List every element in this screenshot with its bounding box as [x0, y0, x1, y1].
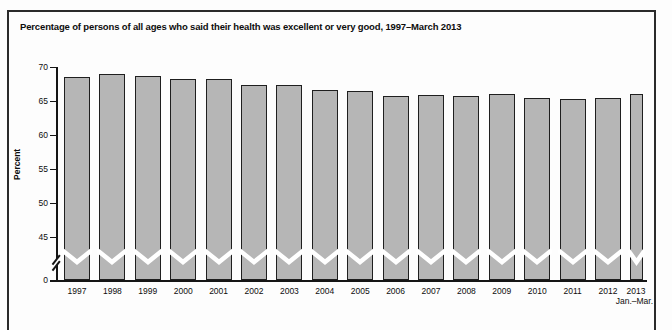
- y-tick-label-0: 0: [9, 275, 48, 285]
- bar-2001: [206, 79, 232, 280]
- chart-box: Percentage of persons of all ages who sa…: [7, 10, 656, 330]
- x-tick-label-2004: 2004: [315, 286, 334, 296]
- bar-1999: [135, 76, 161, 280]
- bar-2002: [241, 85, 267, 280]
- x-tick-sublabel: Jan.–Mar.: [616, 296, 653, 306]
- bar-2003: [276, 85, 302, 280]
- y-tick-label-60: 60: [9, 130, 48, 140]
- x-tick-label-2011: 2011: [563, 286, 581, 296]
- x-tick-label-2007: 2007: [422, 286, 441, 296]
- x-tick-label-2001: 2001: [209, 286, 228, 296]
- bar-2004: [312, 90, 338, 280]
- bar-2008: [453, 96, 479, 280]
- x-tick-label-2008: 2008: [457, 286, 476, 296]
- bar-2007: [418, 95, 444, 280]
- chart-title: Percentage of persons of all ages who sa…: [20, 21, 640, 32]
- axis-break-chevron-icon: [558, 247, 588, 267]
- y-tick-label-50: 50: [9, 198, 48, 208]
- x-tick-label-1998: 1998: [103, 286, 122, 296]
- axis-break-chevron-icon: [310, 247, 340, 267]
- bar-2009: [489, 94, 515, 280]
- bar-2012: [595, 98, 621, 280]
- axis-break-chevron-icon: [451, 247, 481, 267]
- axis-break-chevron-icon: [522, 247, 552, 267]
- bar-2000: [170, 79, 196, 280]
- x-tick-label-1999: 1999: [138, 286, 157, 296]
- x-tick-label-1997: 1997: [68, 286, 87, 296]
- axis-break-chevron-icon: [381, 247, 411, 267]
- axis-break-chevron-icon: [628, 247, 645, 267]
- y-tick-label-65: 65: [9, 96, 48, 106]
- axis-break-chevron-icon: [97, 247, 127, 267]
- x-tick-label-2005: 2005: [351, 286, 370, 296]
- x-tick-label-2000: 2000: [174, 286, 193, 296]
- axis-break-chevron-icon: [487, 247, 517, 267]
- x-tick-label-2013: 2013: [627, 286, 646, 296]
- bar-1997: [64, 77, 90, 280]
- x-tick-label-2006: 2006: [386, 286, 405, 296]
- x-tick-label-2012: 2012: [599, 286, 618, 296]
- bar-2005: [347, 91, 373, 280]
- cropped-figure-number-label: FIGURE 1.1: [2, 0, 112, 3]
- y-tick-label-55: 55: [9, 164, 48, 174]
- x-tick-label-2003: 2003: [280, 286, 299, 296]
- axis-break-chevron-icon: [62, 247, 92, 267]
- bar-2011: [560, 99, 586, 280]
- axis-break-chevron-icon: [274, 247, 304, 267]
- x-axis-baseline: [50, 280, 647, 282]
- axis-break-chevron-icon: [204, 247, 234, 267]
- bar-2013: [630, 94, 643, 280]
- axis-break-chevron-icon: [345, 247, 375, 267]
- axis-break-chevron-icon: [133, 247, 163, 267]
- axis-break-chevron-icon: [416, 247, 446, 267]
- plot-area: 1997199819992000200120022003200420052006…: [56, 67, 652, 280]
- axis-break-chevron-icon: [168, 247, 198, 267]
- bar-2006: [383, 96, 409, 280]
- y-tick-label-70: 70: [9, 62, 48, 72]
- bar-2010: [524, 98, 550, 280]
- x-tick-label-2010: 2010: [528, 286, 547, 296]
- y-tick-label-45: 45: [9, 232, 48, 242]
- axis-break-chevron-icon: [239, 247, 269, 267]
- figure-number-text: FIGURE 1.1: [2, 0, 112, 2]
- x-tick-label-2002: 2002: [245, 286, 264, 296]
- axis-break-chevron-icon: [593, 247, 623, 267]
- bar-1998: [99, 74, 125, 280]
- x-tick-label-2009: 2009: [492, 286, 511, 296]
